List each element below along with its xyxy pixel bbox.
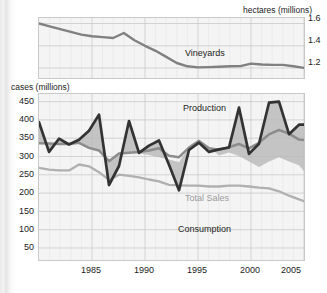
series-label-consumption: Consumption [178,224,231,234]
xtick-1985: 1985 [71,265,111,275]
right-ytick-1-6: 1.6 [308,13,327,23]
xtick-1995: 1995 [177,265,217,275]
left-ytick-200: 200 [4,187,34,197]
left-ytick-300: 300 [4,151,34,161]
xtick-1990: 1990 [124,265,164,275]
xtick-2005: 2005 [271,265,311,275]
series-label-production: Production [183,103,226,113]
production-sales-band [39,102,304,191]
left-ytick-150: 150 [4,206,34,216]
cases-svg [39,94,304,260]
left-ytick-350: 350 [4,132,34,142]
vineyards-svg [39,18,304,78]
cases-plot-area [38,93,305,261]
left-axis-unit-label: cases (millions) [11,82,70,92]
xtick-2000: 2000 [230,265,270,275]
vineyards-plot-area [38,17,305,79]
minor-vertical-gridlines [50,18,294,78]
right-ytick-1-2: 1.2 [308,57,327,67]
left-ytick-50: 50 [4,242,34,252]
minor-vertical-gridlines [50,94,294,260]
left-ytick-250: 250 [4,169,34,179]
right-ytick-1-4: 1.4 [308,35,327,45]
left-ytick-100: 100 [4,224,34,234]
series-label-total-sales: Total Sales [185,193,229,203]
right-axis-unit-label: hectares (millions) [243,5,312,15]
left-ytick-400: 400 [4,114,34,124]
series-label-vineyards: Vineyards [185,48,225,58]
chart-figure: hectares (millions) [0,0,327,293]
left-ytick-450: 450 [4,96,34,106]
